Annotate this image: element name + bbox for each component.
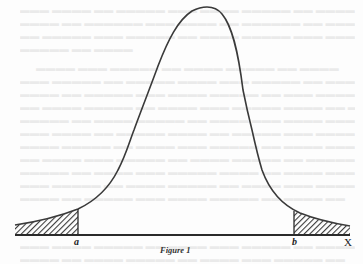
bell-curve-line — [15, 7, 350, 226]
scanned-page: ▬▬▬ ▬▬▬▬ ▬▬ ▬▬▬▬▬ ▬▬▬ ▬▬▬▬ ▬▬▬▬▬ ▬▬ ▬▬▬▬… — [0, 0, 363, 264]
label-b: b — [292, 236, 297, 247]
label-x-axis: X — [344, 236, 352, 248]
label-a: a — [74, 236, 79, 247]
normal-curve-figure — [0, 0, 363, 264]
figure-caption: Figure 1 — [160, 245, 190, 255]
